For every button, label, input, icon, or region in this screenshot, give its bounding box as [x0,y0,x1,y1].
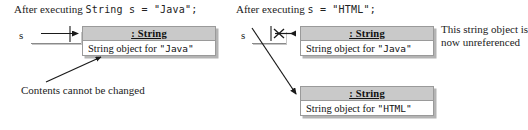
right-old-string-object-box: : String String object for "Java" [300,26,434,56]
right-caption-prefix: After executing [236,3,307,15]
right-variable-label: s [241,29,245,41]
right-new-object-body-text: String object for "HTML" [306,103,412,114]
right-old-object-body: String object for "Java" [300,40,434,56]
left-object-header: : String [82,26,216,40]
right-new-object-body-literal: "HTML" [377,103,411,114]
right-new-object-body: String object for "HTML" [300,100,434,116]
left-caption: After executing String s = "Java"; [14,3,197,16]
right-old-object-body-text: String object for "Java" [306,43,412,54]
left-caption-prefix: After executing [14,3,85,15]
right-old-object-body-prefix: String object for [306,43,377,54]
right-old-object-header-label: : String [349,28,385,39]
right-variable-cell [252,31,286,44]
left-annotation-label: Contents cannot be changed [21,84,145,97]
right-annotation-line-2: now unreferenced [441,36,520,49]
left-caption-code: String s = "Java"; [85,4,197,15]
right-new-object-header: : String [300,86,434,100]
right-new-object-body-prefix: String object for [306,103,377,114]
right-old-object-header: : String [300,26,434,40]
left-annotation-leader-arrow [46,57,101,82]
right-old-object-body-literal: "Java" [377,43,411,54]
left-variable-label: s [19,29,23,41]
left-object-header-label: : String [131,28,167,39]
left-object-body-prefix: String object for [88,43,159,54]
right-annotation-line-1: This string object is [441,23,528,36]
right-new-string-object-box: : String String object for "HTML" [300,86,434,116]
left-object-body: String object for "Java" [82,40,216,56]
left-object-body-text: String object for "Java" [88,43,194,54]
right-new-object-header-label: : String [349,88,385,99]
right-caption-code: s = "HTML"; [307,4,375,15]
left-string-object-box: : String String object for "Java" [82,26,216,56]
right-caption: After executing s = "HTML"; [236,3,376,16]
left-variable-cell [31,31,81,44]
left-object-body-literal: "Java" [159,43,193,54]
